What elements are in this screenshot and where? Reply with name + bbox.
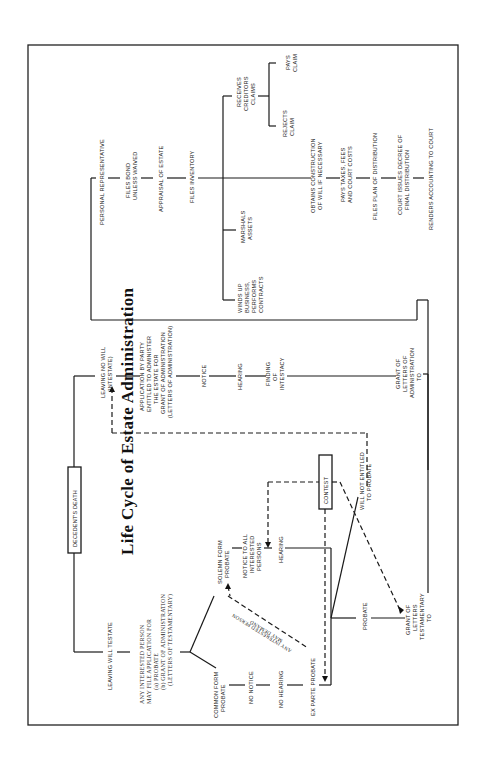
svg-text:PROBATE: PROBATE — [224, 550, 230, 578]
svg-text:FINAL DISTRIBUTION: FINAL DISTRIBUTION — [404, 150, 410, 210]
renders-accounting-to-court: RENDERS ACCOUNTING TO COURT — [428, 128, 434, 230]
estate-administration-flowchart: Life Cycle of Estate Administration DECE… — [0, 0, 483, 765]
leaving-no-will: LEAVING NO WILL — [100, 347, 106, 398]
svg-text:(INTESTATE): (INTESTATE) — [107, 356, 113, 392]
notice-to-all: NOTICE TO ALL — [242, 534, 248, 578]
svg-text:UNLESS WAIVED: UNLESS WAIVED — [132, 152, 138, 200]
svg-text:CREDITORS: CREDITORS — [243, 76, 249, 111]
svg-text:TO: TO — [416, 372, 422, 381]
solemn-form-probate: SOLEMN FORM — [217, 540, 223, 584]
svg-text:(a) PROBATE: (a) PROBATE — [153, 653, 160, 690]
svg-text:OF: OF — [272, 372, 278, 381]
svg-text:APPLICATION BY PARTY: APPLICATION BY PARTY — [139, 342, 145, 411]
rejects-claim: REJECTS — [282, 110, 288, 137]
grant-letters-administration: GRANT OF — [395, 358, 401, 389]
svg-text:PERSONS: PERSONS — [256, 542, 262, 571]
receives-creditors-claims: RECEIVES — [236, 77, 242, 107]
obtains-construction: OBTAINS CONSTRUCTION — [310, 138, 316, 213]
svg-text:GRANT OF ADMINISTRATION: GRANT OF ADMINISTRATION — [160, 332, 166, 414]
intestate-application: APPLICATION BY PARTY ENTITLED TO ADMINIS… — [139, 326, 173, 418]
intestate-hearing: HEARING — [237, 363, 243, 390]
svg-text:ADMINISTRATION: ADMINISTRATION — [409, 348, 415, 398]
svg-text:PROBATE: PROBATE — [220, 684, 226, 712]
testate-hearing: HEARING — [278, 536, 284, 563]
svg-text:THE ESTATE FOR: THE ESTATE FOR — [153, 354, 159, 404]
intestate-notice: NOTICE — [201, 365, 207, 387]
grant-letters-testamentary: GRANT OF — [405, 604, 411, 635]
svg-text:AND COURT COSTS: AND COURT COSTS — [347, 146, 353, 203]
svg-text:CLAIMS: CLAIMS — [250, 83, 256, 105]
svg-text:OF WILL IF NECESSARY: OF WILL IF NECESSARY — [317, 141, 323, 210]
svg-text:CONTRACTS: CONTRACTS — [258, 276, 264, 313]
personal-representative: PERSONAL REPRESENTATIVE — [99, 139, 105, 225]
svg-text:TESTAMENTARY: TESTAMENTARY — [419, 593, 425, 640]
winds-up-business: WINDS UP — [237, 283, 243, 313]
svg-text:PERFORMS: PERFORMS — [251, 280, 257, 313]
svg-text:LETTERS OF: LETTERS OF — [402, 355, 408, 392]
files-inventory: FILES INVENTORY — [189, 150, 195, 203]
svg-text:CLAIM: CLAIM — [292, 54, 298, 72]
svg-text:CLAIM: CLAIM — [289, 118, 295, 136]
svg-text:INTESTACY: INTESTACY — [279, 357, 285, 390]
diagram-title: Life Cycle of Estate Administration — [118, 287, 137, 555]
no-notice: NO NOTICE — [248, 671, 254, 704]
finding-of-intestacy: FINDING — [265, 362, 271, 386]
svg-text:ASSETS: ASSETS — [247, 217, 253, 240]
appraisal-of-estate: APPRAISAL OF ESTATE — [158, 145, 164, 212]
files-bond: FILES BOND — [125, 163, 131, 198]
marshals-assets: MARSHALS — [240, 211, 246, 243]
svg-text:(LETTERS OF TESTAMENTARY): (LETTERS OF TESTAMENTARY) — [167, 594, 174, 686]
svg-text:MAY FILE APPLICATION FOR: MAY FILE APPLICATION FOR — [146, 619, 152, 704]
leaving-will-testate: LEAVING WILL TESTATE — [107, 622, 113, 690]
svg-text:INTERESTED: INTERESTED — [249, 536, 255, 573]
ex-parte-probate: EX PARTE PROBATE — [310, 658, 316, 716]
svg-text:(LETTERS OF ADMINISTRATION): (LETTERS OF ADMINISTRATION) — [167, 326, 173, 418]
svg-text:TO: TO — [426, 613, 432, 622]
pays-taxes: PAYS TAXES, FEES — [340, 148, 346, 202]
will-not-entitled: WILL NOT ENTITLED — [359, 452, 365, 510]
court-issues-decree: COURT ISSUES DECREE OF — [397, 134, 403, 215]
common-form-probate: COMMON FORM — [213, 672, 219, 718]
decedents-death-label: DECEDENT'S DEATH — [72, 490, 78, 547]
probate: PROBATE — [362, 602, 368, 630]
contest-label: CONTEST — [323, 476, 329, 504]
svg-text:ANY INTERESTED PERSON: ANY INTERESTED PERSON — [139, 624, 145, 704]
svg-text:LETTERS: LETTERS — [412, 604, 418, 631]
no-hearing: NO HEARING — [278, 671, 284, 708]
pays-claim: PAYS — [285, 55, 291, 70]
files-plan-of-distribution: FILES PLAN OF DISTRIBUTION — [372, 133, 378, 220]
svg-text:ENTITLED TO ADMINISTER: ENTITLED TO ADMINISTER — [146, 336, 152, 412]
testate-application: ANY INTERESTED PERSON MAY FILE APPLICATI… — [139, 593, 174, 704]
svg-text:(b) GRANT OF ADMINISTRATION: (b) GRANT OF ADMINISTRATION — [160, 593, 167, 690]
svg-text:BUSINESS,: BUSINESS, — [244, 281, 250, 313]
